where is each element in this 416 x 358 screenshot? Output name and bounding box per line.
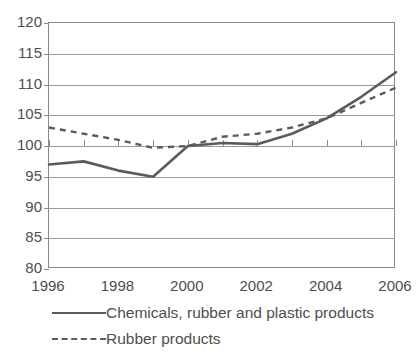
y-axis-tick-label: 85 bbox=[2, 229, 42, 244]
legend-item-chemicals: Chemicals, rubber and plastic products bbox=[48, 300, 398, 326]
legend-label-rubber: Rubber products bbox=[106, 331, 221, 347]
x-axis-tick-label: 2000 bbox=[164, 278, 210, 293]
series-line-rubber bbox=[49, 88, 396, 148]
x-axis-tick bbox=[396, 140, 397, 146]
x-axis-tick-label: 2004 bbox=[303, 278, 349, 293]
legend-label-chemicals: Chemicals, rubber and plastic products bbox=[106, 305, 374, 321]
x-axis-tick-label: 2006 bbox=[372, 278, 416, 293]
y-axis-tick bbox=[44, 269, 49, 270]
series-line-chemicals bbox=[49, 72, 396, 177]
y-axis-tick-label: 110 bbox=[2, 76, 42, 91]
x-axis-tick-label: 1998 bbox=[94, 278, 140, 293]
x-axis-tick-label: 2002 bbox=[233, 278, 279, 293]
legend-swatch-dashed-icon bbox=[48, 333, 106, 345]
y-axis-tick-label: 95 bbox=[2, 168, 42, 183]
y-axis-tick-label: 90 bbox=[2, 199, 42, 214]
y-axis-tick-label: 120 bbox=[2, 14, 42, 29]
chart-legend: Chemicals, rubber and plastic products R… bbox=[48, 300, 398, 352]
y-axis-tick-label: 100 bbox=[2, 137, 42, 152]
x-axis-tick-label: 1996 bbox=[25, 278, 71, 293]
y-axis-tick-label: 105 bbox=[2, 106, 42, 121]
plot-area bbox=[48, 22, 395, 268]
y-axis-tick-label: 80 bbox=[2, 260, 42, 275]
y-axis-tick-label: 115 bbox=[2, 45, 42, 60]
legend-swatch-solid-icon bbox=[48, 307, 106, 319]
legend-item-rubber: Rubber products bbox=[48, 326, 398, 352]
series-lines bbox=[49, 23, 396, 269]
